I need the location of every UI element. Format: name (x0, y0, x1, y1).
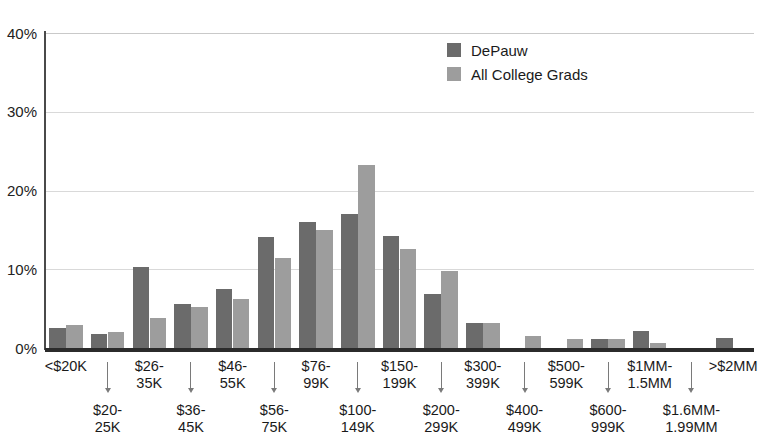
x-axis-tick-arrow (103, 362, 113, 393)
x-axis-line (45, 348, 754, 352)
x-axis-label: $300-399K (438, 358, 528, 392)
bar (400, 249, 417, 348)
x-axis-tick-arrow (186, 362, 196, 393)
bar-group (633, 33, 667, 348)
bar (233, 299, 250, 348)
bar (525, 336, 542, 348)
bar-group (91, 33, 125, 348)
legend-swatch-all-college-grads (447, 67, 461, 81)
x-axis-label: $1MM-1.5MM (605, 358, 695, 392)
legend-item-depauw: DePauw (447, 38, 588, 62)
bar (258, 237, 275, 348)
bar (716, 338, 733, 348)
x-axis-label: $36-45K (146, 402, 236, 436)
bar (608, 339, 625, 348)
bar (650, 343, 667, 349)
x-axis-tick-arrow (686, 362, 696, 393)
bar-group (174, 33, 208, 348)
bar (49, 328, 66, 348)
bar (216, 289, 233, 348)
bar-group (591, 33, 625, 348)
x-axis-labels: <$20K$26-35K$46-55K$76-99K$150-199K$300-… (0, 356, 759, 442)
x-axis-label: $400-499K (480, 402, 570, 436)
x-axis-label: $46-55K (188, 358, 278, 392)
bar-group (383, 33, 417, 348)
x-axis-label: $100-149K (313, 402, 403, 436)
bar-group (258, 33, 292, 348)
bar (591, 339, 608, 348)
bar (383, 236, 400, 348)
y-tick-label-0: 0% (0, 341, 37, 356)
bar (567, 339, 584, 348)
chart-legend: DePauw All College Grads (447, 38, 588, 86)
x-axis-label: $20-25K (63, 402, 153, 436)
bar (466, 323, 483, 348)
bar (441, 271, 458, 348)
x-axis-tick-arrow (603, 362, 613, 393)
bar (133, 267, 150, 348)
bar (174, 304, 191, 348)
bar (358, 165, 375, 348)
bar (91, 334, 108, 348)
bar-group (675, 33, 709, 348)
bars-layer (45, 33, 754, 348)
x-axis-tick-arrow (269, 362, 279, 393)
legend-item-all-college-grads: All College Grads (447, 62, 588, 86)
x-axis-label: $26-35K (104, 358, 194, 392)
legend-label-all-college-grads: All College Grads (471, 66, 588, 83)
x-axis-tick-arrow (353, 362, 363, 393)
bar (275, 258, 292, 348)
x-axis-label: $500-599K (521, 358, 611, 392)
bar (483, 323, 500, 348)
legend-swatch-depauw (447, 43, 461, 57)
x-axis-label: $150-199K (355, 358, 445, 392)
x-axis-label: $200-299K (396, 402, 486, 436)
x-axis-label: >$2MM (688, 358, 759, 375)
bar (108, 332, 125, 348)
bar-group (341, 33, 375, 348)
x-axis-label: $600-999K (563, 402, 653, 436)
y-tick-label-30: 30% (0, 104, 37, 119)
bar-group (216, 33, 250, 348)
x-axis-tick-arrow (436, 362, 446, 393)
x-axis-label: <$20K (21, 358, 111, 375)
bar-group (716, 33, 750, 348)
legend-label-depauw: DePauw (471, 42, 528, 59)
y-tick-label-40: 40% (0, 26, 37, 41)
y-tick-label-20: 20% (0, 183, 37, 198)
bar (341, 214, 358, 348)
bar-chart: 40% 30% 20% 10% 0% DePauw All College Gr… (0, 0, 759, 442)
bar (66, 325, 83, 348)
bar (299, 222, 316, 348)
y-tick-label-10: 10% (0, 262, 37, 277)
bar-group (133, 33, 167, 348)
x-axis-label: $1.6MM-1.99MM (646, 402, 736, 436)
bar (633, 331, 650, 348)
x-axis-tick-arrow (520, 362, 530, 393)
x-axis-label: $56-75K (229, 402, 319, 436)
bar (191, 307, 208, 348)
bar (316, 230, 333, 348)
bar (150, 318, 167, 348)
bar (424, 294, 441, 348)
bar-group (49, 33, 83, 348)
bar-group (299, 33, 333, 348)
x-axis-label: $76-99K (271, 358, 361, 392)
